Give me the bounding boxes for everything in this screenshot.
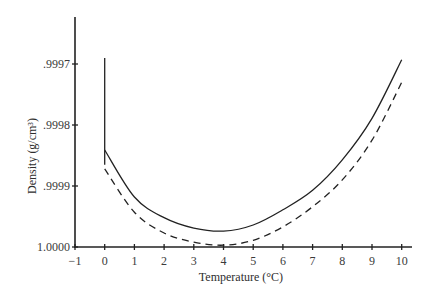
x-axis-title: Temperature (°C): [199, 270, 283, 284]
x-tick-label: 8: [339, 254, 345, 268]
dashed-density-curve: [105, 82, 402, 245]
y-tick-label: .9998: [43, 118, 70, 132]
x-tick-label: −1: [69, 254, 82, 268]
y-ticks: .9997.9998.99991.0000: [37, 57, 78, 254]
plot-area: [105, 58, 402, 245]
x-tick-label: 1: [131, 254, 137, 268]
x-tick-label: 0: [102, 254, 108, 268]
density-temperature-chart: .9997.9998.99991.0000 Density (g/cm³) −1…: [0, 0, 435, 303]
x-tick-label: 9: [369, 254, 375, 268]
x-tick-label: 5: [250, 254, 256, 268]
x-tick-label: 3: [191, 254, 197, 268]
y-tick-label: 1.0000: [37, 240, 70, 254]
solid-density-curve: [105, 60, 402, 232]
x-tick-label: 7: [310, 254, 316, 268]
y-axis-title: Density (g/cm³): [25, 118, 39, 194]
x-tick-label: 6: [280, 254, 286, 268]
x-axis: −1012345678910 Temperature (°C): [69, 244, 412, 284]
y-tick-label: .9997: [43, 57, 70, 71]
x-tick-label: 10: [396, 254, 408, 268]
x-tick-label: 4: [221, 254, 227, 268]
x-tick-label: 2: [161, 254, 167, 268]
y-axis: .9997.9998.99991.0000 Density (g/cm³): [25, 17, 78, 254]
y-tick-label: .9999: [43, 179, 70, 193]
